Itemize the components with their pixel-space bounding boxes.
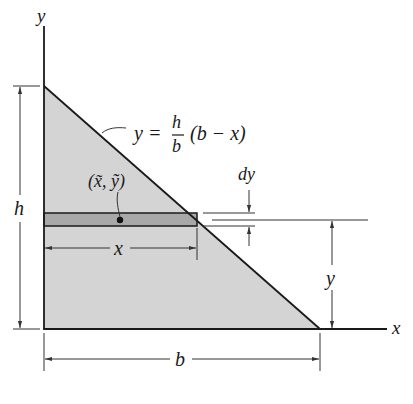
h-dimension-label: h — [14, 198, 24, 218]
equation-fraction-numerator: h — [172, 113, 181, 131]
y-dimension-label: y — [326, 268, 335, 288]
equation-fraction-denominator: b — [172, 137, 181, 155]
y-axis-label: y — [37, 6, 45, 25]
centroid-dot — [117, 217, 123, 223]
equation-leader — [102, 128, 126, 133]
dy-dimension-label: dy — [238, 165, 255, 183]
x-axis-label: x — [392, 318, 400, 337]
x-dimension-label: x — [114, 238, 123, 258]
equation-lhs: y = — [134, 123, 161, 143]
equation-rhs: (b − x) — [190, 123, 246, 143]
centroid-label: (x̃, ỹ) — [88, 172, 125, 190]
triangle-area-diagram — [0, 0, 413, 404]
b-dimension-label: b — [175, 349, 185, 369]
